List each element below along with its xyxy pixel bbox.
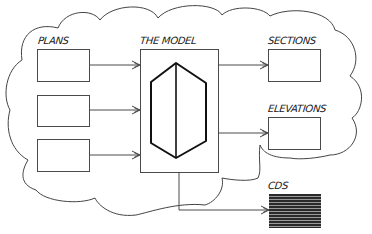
cds-stack <box>269 194 321 228</box>
cds-label: CDS <box>267 180 288 191</box>
model-label: THE MODEL <box>139 35 197 46</box>
plan-box-3 <box>37 139 90 172</box>
sections-box <box>268 49 321 82</box>
plan-box-1 <box>37 49 90 82</box>
hexagonal-prism-icon <box>151 63 206 158</box>
diagram-canvas: PLANS THE MODEL SECTIONS ELEVATIONS CDS <box>0 0 372 234</box>
plans-label: PLANS <box>37 35 69 46</box>
elevations-box <box>268 117 321 150</box>
elevations-label: ELEVATIONS <box>267 103 326 114</box>
plan-box-2 <box>37 95 90 127</box>
sections-label: SECTIONS <box>267 35 316 46</box>
